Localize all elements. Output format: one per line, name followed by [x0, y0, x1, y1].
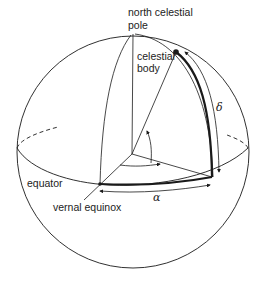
declination-arc [176, 52, 212, 177]
right-ascension-label: α [153, 191, 161, 204]
celestial-sphere-diagram: north celestial pole celestial body equa… [0, 0, 261, 285]
meridian-vernal-equinox [100, 35, 131, 184]
vernal-equinox-label: vernal equinox [53, 201, 122, 213]
ra-angle-arrow [120, 164, 160, 166]
celestial-body-label-2: body [137, 62, 161, 74]
equator-back-right [227, 135, 248, 148]
equator-label: equator [27, 177, 63, 189]
declination-arrow [185, 52, 219, 172]
polar-axis [132, 34, 133, 154]
north-pole-label-2: pole [128, 19, 148, 31]
right-ascension-arc [100, 177, 212, 185]
vernal-equinox-dot [98, 182, 102, 186]
north-pole-label-1: north celestial [128, 6, 193, 18]
equator-back-left [17, 127, 58, 148]
celestial-body-label-1: celestial [137, 50, 175, 62]
declination-label: δ [216, 101, 223, 114]
line-to-vernal-equinox [84, 154, 132, 200]
